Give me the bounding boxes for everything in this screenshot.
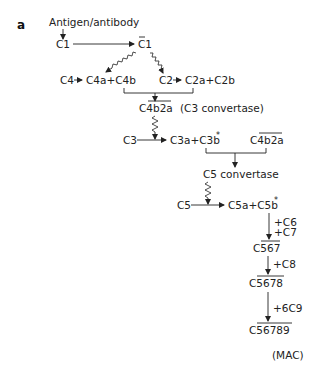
bracket-c3b-c4b2a bbox=[206, 148, 266, 153]
enzymatic-zigzag-c3 bbox=[152, 116, 158, 132]
node-c567: C567 bbox=[253, 242, 280, 254]
enzymatic-zigzag-c5 bbox=[205, 182, 211, 198]
node-c3-products: C3a+C3b bbox=[170, 134, 220, 146]
panel-label: a bbox=[17, 18, 25, 32]
node-c5: C5 bbox=[177, 199, 191, 211]
bracket-c4b-c2a bbox=[124, 88, 193, 93]
node-c1: C1 bbox=[56, 38, 70, 50]
c5b-star: * bbox=[274, 196, 278, 205]
node-c5-products: C5a+C5b bbox=[228, 199, 278, 211]
enzymatic-zigzag-c1-to-c2 bbox=[150, 53, 162, 69]
label-add-c7: +C7 bbox=[274, 226, 297, 238]
node-c56789: C56789 bbox=[249, 324, 290, 336]
node-c5678: C5678 bbox=[249, 277, 283, 289]
node-c3-convertase: C4b2a bbox=[139, 102, 173, 114]
label-mac: (MAC) bbox=[272, 349, 304, 361]
node-c2-products: C2a+C2b bbox=[185, 74, 235, 86]
label-c3-convertase: (C3 convertase) bbox=[180, 102, 264, 114]
node-c4-products: C4a+C4b bbox=[86, 74, 136, 86]
node-c4b2a-repeat: C4b2a bbox=[250, 134, 284, 146]
node-c4: C4 bbox=[60, 74, 74, 86]
complement-cascade-diagram: a Antigen/antibody C1 C1 C4 C4a+C4b C2 C… bbox=[0, 0, 320, 378]
node-antigen-antibody: Antigen/antibody bbox=[49, 16, 139, 28]
arrowhead-to-c2 bbox=[161, 69, 163, 73]
enzymatic-zigzag-c1-to-c4 bbox=[112, 52, 136, 68]
node-c1-active: C1 bbox=[138, 38, 152, 50]
arrowhead-to-c4b bbox=[106, 68, 112, 72]
c3b-star: * bbox=[216, 131, 220, 140]
node-c3: C3 bbox=[123, 134, 137, 146]
node-c2: C2 bbox=[159, 74, 173, 86]
node-c5-convertase: C5 convertase bbox=[203, 168, 279, 180]
label-add-c8: +C8 bbox=[273, 258, 296, 270]
label-add-c9: +6C9 bbox=[273, 302, 303, 314]
